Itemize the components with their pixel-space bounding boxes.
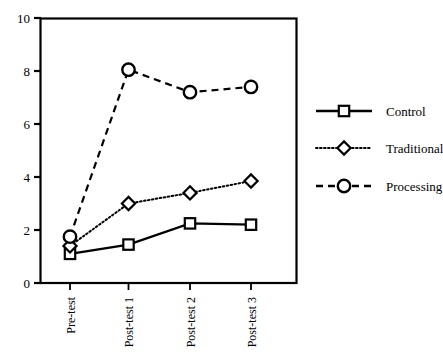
y-tick-label-2: 2 — [24, 223, 31, 238]
y-tick-label-8: 8 — [24, 64, 31, 79]
y-tick-label-4: 4 — [24, 170, 31, 185]
y-tick-label-10: 10 — [17, 11, 30, 26]
legend-marker-processing — [338, 180, 350, 192]
marker-processing-1 — [122, 63, 134, 75]
marker-control-2 — [185, 218, 195, 228]
legend-marker-control — [339, 106, 349, 116]
y-tick-label-6: 6 — [24, 117, 31, 132]
chart-figure: 0246810 Pre-testPost-test 1Post-test 2Po… — [0, 0, 443, 353]
legend-label-processing: Processing — [386, 179, 443, 194]
legend-label-traditional: Traditional — [386, 141, 443, 156]
x-tick-label-0: Pre-test — [64, 296, 78, 333]
marker-processing-3 — [245, 81, 257, 93]
legend-label-control: Control — [386, 104, 426, 119]
marker-control-1 — [123, 239, 133, 249]
line-chart: 0246810 Pre-testPost-test 1Post-test 2Po… — [0, 0, 443, 353]
x-tick-label-1: Post-test 1 — [122, 297, 136, 347]
y-tick-label-0: 0 — [24, 276, 31, 291]
x-tick-label-2: Post-test 2 — [184, 297, 198, 347]
marker-processing-2 — [184, 86, 196, 98]
marker-processing-0 — [64, 230, 76, 242]
marker-control-3 — [246, 220, 256, 230]
x-tick-label-3: Post-test 3 — [245, 297, 259, 347]
